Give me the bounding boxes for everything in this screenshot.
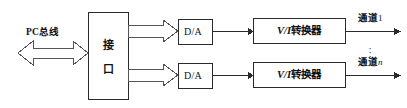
interface-char-bottom: 口 — [101, 64, 115, 75]
vi-prefix-row2: V/I — [277, 69, 291, 80]
channel-text-row1: 通道 — [358, 13, 378, 23]
diagram-vectors — [0, 0, 407, 108]
output-arrowhead-row1 — [394, 28, 401, 35]
vi-prefix-row1: V/I — [277, 25, 291, 36]
interface-label: 接 口 — [101, 40, 115, 75]
vi-converter-label-row1: V/I转换器 — [253, 26, 345, 37]
block-arrow-row1 — [128, 20, 178, 42]
vi-suffix-row1: 转换器 — [291, 25, 321, 36]
vi-converter-label-row2: V/I转换器 — [253, 70, 345, 81]
block-diagram-figure: PC总线 接 口 D/A D/A V/I转换器 V/I转换器 通道1 通道n ·… — [0, 0, 407, 108]
channel-index-row2: n — [378, 57, 383, 67]
block-arrow-row2 — [128, 64, 178, 86]
pc-bus-double-arrow — [18, 41, 88, 65]
channel-index-row1: 1 — [378, 13, 383, 23]
da-label-row1: D/A — [184, 27, 202, 37]
output-arrowhead-row2 — [394, 72, 401, 79]
interface-char-top: 接 — [101, 40, 115, 51]
vertical-ellipsis-icon: · · · — [366, 46, 374, 58]
da-label-row2: D/A — [184, 71, 202, 81]
ellipsis-dot-3: · — [366, 54, 374, 58]
vi-suffix-row2: 转换器 — [291, 69, 321, 80]
pc-bus-label: PC总线 — [26, 28, 59, 38]
channel-label-row1: 通道1 — [358, 14, 383, 24]
